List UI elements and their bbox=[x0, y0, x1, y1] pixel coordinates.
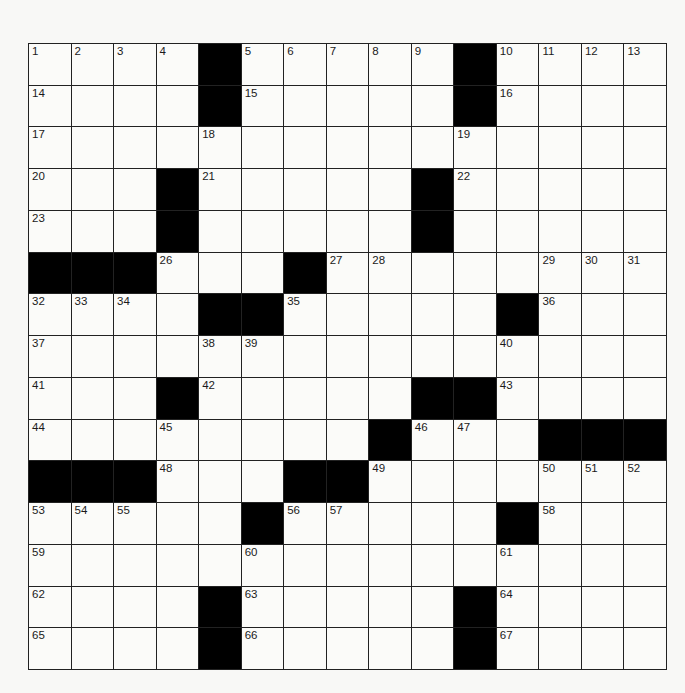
grid-cell[interactable] bbox=[284, 127, 326, 168]
grid-cell[interactable] bbox=[369, 336, 411, 377]
grid-cell[interactable]: 11 bbox=[539, 44, 581, 85]
grid-cell[interactable] bbox=[72, 211, 114, 252]
grid-cell[interactable] bbox=[157, 503, 199, 544]
grid-cell[interactable]: 2 bbox=[72, 44, 114, 85]
grid-cell[interactable] bbox=[284, 336, 326, 377]
grid-cell[interactable] bbox=[369, 169, 411, 210]
grid-cell[interactable] bbox=[72, 587, 114, 628]
grid-cell[interactable] bbox=[412, 86, 454, 127]
grid-cell[interactable] bbox=[327, 86, 369, 127]
grid-cell[interactable] bbox=[284, 211, 326, 252]
grid-cell[interactable] bbox=[284, 628, 326, 669]
grid-cell[interactable] bbox=[582, 503, 624, 544]
grid-cell[interactable] bbox=[157, 336, 199, 377]
grid-cell[interactable] bbox=[114, 587, 156, 628]
grid-cell[interactable] bbox=[582, 545, 624, 586]
grid-cell[interactable] bbox=[497, 127, 539, 168]
grid-cell[interactable] bbox=[497, 211, 539, 252]
grid-cell[interactable]: 14 bbox=[29, 86, 71, 127]
grid-cell[interactable] bbox=[327, 127, 369, 168]
grid-cell[interactable] bbox=[369, 545, 411, 586]
grid-cell[interactable] bbox=[497, 461, 539, 502]
grid-cell[interactable] bbox=[114, 127, 156, 168]
grid-cell[interactable]: 36 bbox=[539, 294, 581, 335]
grid-cell[interactable] bbox=[284, 378, 326, 419]
grid-cell[interactable] bbox=[412, 628, 454, 669]
grid-cell[interactable]: 52 bbox=[624, 461, 666, 502]
grid-cell[interactable] bbox=[369, 294, 411, 335]
grid-cell[interactable]: 65 bbox=[29, 628, 71, 669]
grid-cell[interactable]: 45 bbox=[157, 420, 199, 461]
grid-cell[interactable] bbox=[114, 169, 156, 210]
grid-cell[interactable]: 63 bbox=[242, 587, 284, 628]
grid-cell[interactable] bbox=[72, 336, 114, 377]
grid-cell[interactable]: 33 bbox=[72, 294, 114, 335]
grid-cell[interactable]: 54 bbox=[72, 503, 114, 544]
grid-cell[interactable]: 59 bbox=[29, 545, 71, 586]
grid-cell[interactable] bbox=[454, 336, 496, 377]
grid-cell[interactable]: 44 bbox=[29, 420, 71, 461]
grid-cell[interactable] bbox=[454, 545, 496, 586]
grid-cell[interactable]: 21 bbox=[199, 169, 241, 210]
grid-cell[interactable]: 40 bbox=[497, 336, 539, 377]
grid-cell[interactable] bbox=[369, 503, 411, 544]
grid-cell[interactable] bbox=[582, 628, 624, 669]
grid-cell[interactable] bbox=[72, 169, 114, 210]
grid-cell[interactable]: 49 bbox=[369, 461, 411, 502]
grid-cell[interactable] bbox=[539, 336, 581, 377]
grid-cell[interactable] bbox=[327, 169, 369, 210]
grid-cell[interactable] bbox=[284, 587, 326, 628]
grid-cell[interactable] bbox=[369, 378, 411, 419]
grid-cell[interactable]: 60 bbox=[242, 545, 284, 586]
grid-cell[interactable]: 66 bbox=[242, 628, 284, 669]
grid-cell[interactable] bbox=[242, 169, 284, 210]
grid-cell[interactable]: 28 bbox=[369, 253, 411, 294]
grid-cell[interactable] bbox=[539, 545, 581, 586]
grid-cell[interactable] bbox=[412, 461, 454, 502]
grid-cell[interactable] bbox=[454, 253, 496, 294]
grid-cell[interactable] bbox=[412, 336, 454, 377]
grid-cell[interactable]: 8 bbox=[369, 44, 411, 85]
grid-cell[interactable] bbox=[72, 628, 114, 669]
grid-cell[interactable]: 23 bbox=[29, 211, 71, 252]
grid-cell[interactable] bbox=[582, 378, 624, 419]
grid-cell[interactable]: 9 bbox=[412, 44, 454, 85]
grid-cell[interactable] bbox=[582, 211, 624, 252]
grid-cell[interactable] bbox=[369, 587, 411, 628]
grid-cell[interactable] bbox=[582, 86, 624, 127]
grid-cell[interactable] bbox=[72, 86, 114, 127]
grid-cell[interactable] bbox=[412, 253, 454, 294]
grid-cell[interactable]: 46 bbox=[412, 420, 454, 461]
grid-cell[interactable] bbox=[157, 294, 199, 335]
grid-cell[interactable] bbox=[72, 127, 114, 168]
grid-cell[interactable]: 67 bbox=[497, 628, 539, 669]
grid-cell[interactable] bbox=[284, 86, 326, 127]
grid-cell[interactable] bbox=[539, 211, 581, 252]
grid-cell[interactable]: 35 bbox=[284, 294, 326, 335]
grid-cell[interactable]: 57 bbox=[327, 503, 369, 544]
grid-cell[interactable] bbox=[199, 545, 241, 586]
grid-cell[interactable] bbox=[242, 211, 284, 252]
grid-cell[interactable]: 37 bbox=[29, 336, 71, 377]
grid-cell[interactable] bbox=[369, 628, 411, 669]
grid-cell[interactable]: 32 bbox=[29, 294, 71, 335]
grid-cell[interactable] bbox=[539, 169, 581, 210]
grid-cell[interactable]: 62 bbox=[29, 587, 71, 628]
grid-cell[interactable] bbox=[114, 336, 156, 377]
grid-cell[interactable]: 1 bbox=[29, 44, 71, 85]
grid-cell[interactable] bbox=[157, 587, 199, 628]
grid-cell[interactable]: 20 bbox=[29, 169, 71, 210]
grid-cell[interactable] bbox=[454, 294, 496, 335]
grid-cell[interactable] bbox=[624, 336, 666, 377]
grid-cell[interactable]: 53 bbox=[29, 503, 71, 544]
grid-cell[interactable] bbox=[284, 420, 326, 461]
grid-cell[interactable]: 61 bbox=[497, 545, 539, 586]
grid-cell[interactable]: 29 bbox=[539, 253, 581, 294]
grid-cell[interactable]: 43 bbox=[497, 378, 539, 419]
grid-cell[interactable] bbox=[114, 420, 156, 461]
grid-cell[interactable] bbox=[497, 420, 539, 461]
grid-cell[interactable] bbox=[582, 587, 624, 628]
grid-cell[interactable] bbox=[327, 378, 369, 419]
grid-cell[interactable] bbox=[157, 545, 199, 586]
grid-cell[interactable] bbox=[157, 628, 199, 669]
